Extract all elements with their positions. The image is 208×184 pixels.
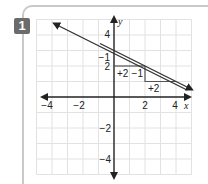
y-axis-label: y [117,16,123,27]
y-tick-label: −2 [100,123,112,134]
rise-label: −1 [99,52,111,63]
x-tick-label: −2 [73,100,85,111]
x-tick-label: −4 [41,100,53,111]
x-tick-label: 4 [172,100,178,111]
run-label: +2 [148,83,160,94]
run-label: +2 [117,68,129,79]
x-axis-label: x [183,100,189,111]
y-tick-label: 4 [104,29,110,40]
graph-line [54,24,187,91]
x-tick-label: 2 [142,100,148,111]
rise-label: −1 [132,68,144,79]
y-tick-label: −4 [100,154,112,165]
coordinate-graph: −4 −2 2 4 x 4 2 −2 −4 y −1 +2 −1 +2 [0,0,208,184]
